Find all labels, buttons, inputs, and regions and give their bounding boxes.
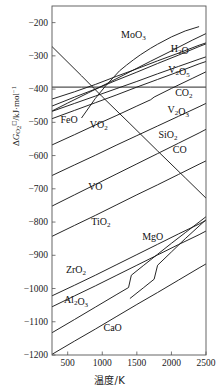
y-tick-label: −700 (28, 184, 48, 194)
x-tick-label: 1500 (127, 358, 146, 368)
x-axis-label-text: 温度/K (94, 375, 125, 386)
x-axis-label: 温度/K (0, 372, 219, 387)
series-label-co: CO (173, 144, 187, 155)
y-tick-label: −900 (28, 250, 48, 260)
series-label-cao: CaO (103, 322, 121, 333)
x-tick-label: 2000 (162, 358, 181, 368)
y-tick-label: −400 (28, 84, 48, 94)
x-tick-label: 500 (61, 358, 76, 368)
x-tick-label: 1000 (93, 358, 112, 368)
y-tick-label: −300 (28, 51, 48, 61)
chart-canvas: −200−300−400−500−600−700−800−900−1000−11… (0, 0, 219, 392)
y-tick-label: −1000 (24, 284, 49, 294)
x-tick-label: 2500 (197, 358, 216, 368)
y-tick-label: −800 (28, 217, 48, 227)
ellingham-diagram-figure: −200−300−400−500−600−700−800−900−1000−11… (0, 0, 219, 392)
y-tick-label: −1100 (24, 317, 48, 327)
series-label-feo: FeO (60, 114, 77, 125)
series-label-mgo: MgO (142, 231, 163, 242)
y-tick-label: −200 (28, 18, 48, 28)
series-label-vo: VO (88, 181, 102, 192)
y-tick-label: −500 (28, 117, 48, 127)
y-tick-label: −600 (28, 151, 48, 161)
y-tick-label: −1200 (24, 350, 49, 360)
